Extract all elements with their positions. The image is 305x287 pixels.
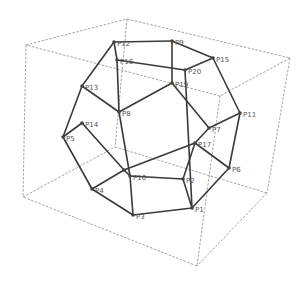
vertex-P1 [190, 206, 194, 210]
box-edge-GH [197, 193, 267, 266]
edge-P5-P4 [63, 137, 92, 189]
vertex-label-P12: P12 [117, 40, 130, 48]
vertex-P16 [115, 58, 119, 62]
vertex-P17 [193, 141, 197, 145]
vertex-label-P8: P8 [122, 110, 131, 118]
box-edge-AB [26, 19, 127, 45]
vertex-P2 [181, 177, 185, 181]
vertex-label-P11: P11 [243, 111, 256, 119]
edge-P19-P8 [119, 83, 172, 112]
edge-P12-P13 [82, 42, 114, 86]
diagram-canvas: P12P9P15P16P20P19P13P8P11P14P7P5P17P6P10… [0, 0, 305, 287]
vertex-label-P16: P16 [120, 58, 134, 66]
vertex-label-P10: P10 [133, 174, 146, 182]
vertex-P8 [117, 110, 121, 114]
edge-P19-P7 [172, 83, 209, 128]
edge-P17-P18 [124, 143, 195, 170]
vertex-P20 [183, 68, 187, 72]
vertex-label-P1: P1 [195, 206, 204, 214]
vertex-label-P13: P13 [85, 84, 98, 92]
vertex-P6 [227, 166, 231, 170]
vertex-P7 [207, 126, 211, 130]
box-edge-CG [267, 58, 290, 193]
vertex-P15 [211, 56, 215, 60]
dodecahedron-diagram: P12P9P15P16P20P19P13P8P11P14P7P5P17P6P10… [0, 0, 305, 287]
vertex-P14 [80, 121, 84, 125]
vertex-P19 [170, 81, 174, 85]
vertex-P4 [90, 187, 94, 191]
box-edge-AE [23, 45, 26, 197]
vertex-P12 [112, 40, 116, 44]
vertex-P5 [61, 135, 65, 139]
box-edge-HE [23, 197, 197, 266]
box-edge-CD [220, 58, 290, 96]
vertex-label-P7: P7 [212, 126, 221, 134]
box-edge-BC [127, 19, 290, 58]
vertex-P10 [128, 174, 132, 178]
edge-P14-P18 [82, 123, 124, 170]
edge-P1-P6 [192, 168, 229, 208]
bounding-box [23, 19, 290, 266]
edge-P11-P6 [229, 113, 240, 168]
vertex-P18 [122, 168, 126, 172]
vertex-label-P19: P19 [175, 81, 188, 89]
vertex-label-P15: P15 [216, 56, 229, 64]
vertex-P9 [170, 39, 174, 43]
vertex-label-P17: P17 [198, 141, 211, 149]
vertex-label-P9: P9 [175, 39, 184, 47]
vertex-label-P5: P5 [66, 135, 75, 143]
vertex-label-P14: P14 [85, 121, 99, 129]
vertex-P11 [238, 111, 242, 115]
vertex-label-P6: P6 [232, 166, 241, 174]
vertex-label-P20: P20 [188, 68, 201, 76]
vertex-label-P3: P3 [136, 213, 145, 221]
vertex-label-P2: P2 [186, 177, 195, 185]
vertex-label-P4: P4 [95, 187, 104, 195]
edge-P15-P11 [213, 58, 240, 113]
edge-P16-P8 [117, 60, 119, 112]
vertex-P13 [80, 84, 84, 88]
vertex-P3 [131, 213, 135, 217]
